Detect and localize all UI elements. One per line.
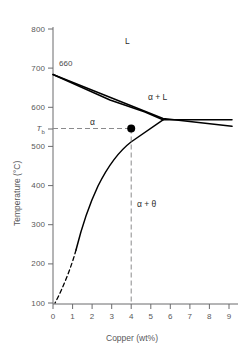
x-axis-title: Copper (wt%) [106,333,158,343]
y-tick-label-tb: Tb [18,124,45,135]
x-tick-label-0: 0 [43,312,63,321]
y-tick-label-500: 500 [18,142,45,151]
y-tick-label-600: 600 [18,103,45,112]
y-tick-label-400: 400 [18,181,45,190]
y-axis-title: Temperature (°C) [12,161,22,226]
x-tick-label-8: 8 [199,312,219,321]
y-tick-label-tb-subscript: b [42,128,45,134]
y-tick-label-300: 300 [18,220,45,229]
x-tick-label-4: 4 [121,312,141,321]
alpha-plus-liquid-region-label: α + L [148,92,167,102]
y-tick-label-200: 200 [18,259,45,268]
phase-diagram-figure: 800 700 600 500 400 300 200 100 Tb 0 1 2… [0,0,244,357]
solvus-curve-solid [76,120,163,250]
alpha-plus-theta-region-label: α + θ [137,199,156,209]
x-tick-label-6: 6 [160,312,180,321]
x-tick-label-5: 5 [141,312,161,321]
y-axis-ticks [48,29,53,303]
x-tick-label-9: 9 [219,312,239,321]
liquidus-curve [53,75,232,127]
alpha-region-label: α [90,117,95,127]
x-tick-label-3: 3 [102,312,122,321]
y-tick-label-100: 100 [18,299,45,308]
x-axis-ticks [53,304,229,309]
y-tick-label-700: 700 [18,64,45,73]
melting-point-label: 660 [59,59,72,68]
solvus-curve-dashed [55,250,76,303]
x-tick-label-1: 1 [63,312,83,321]
composition-marker-point [127,125,135,133]
y-tick-label-800: 800 [18,25,45,34]
liquid-region-label: L [125,36,130,46]
x-tick-label-2: 2 [82,312,102,321]
x-tick-label-7: 7 [180,312,200,321]
